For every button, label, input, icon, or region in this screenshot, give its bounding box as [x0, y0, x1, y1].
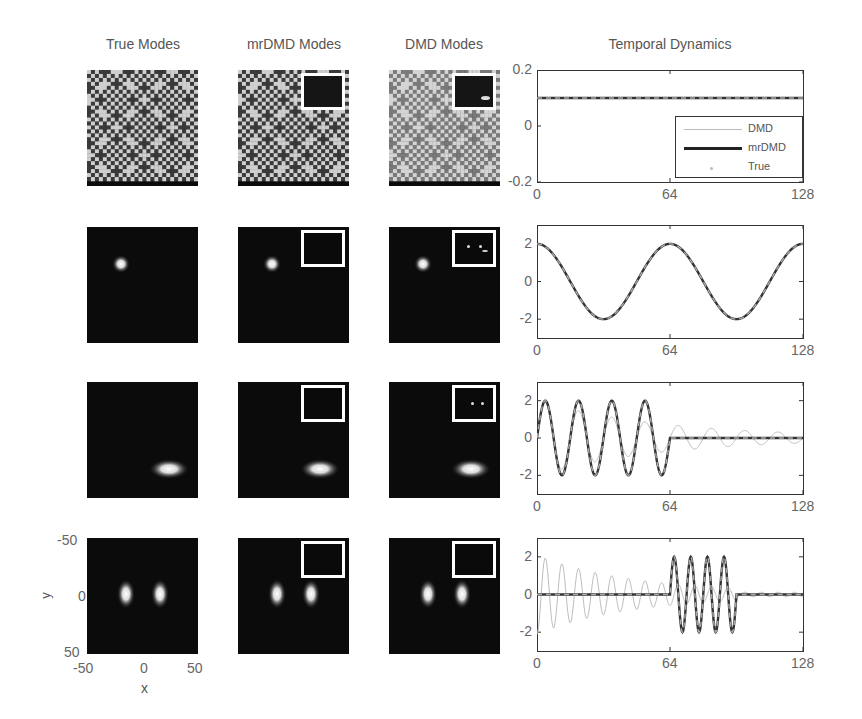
- plot3-y-tick: 2: [524, 392, 532, 408]
- plot1-x-tick: 128: [791, 186, 814, 202]
- temporal-plot-row1: 0.20-0.2064128DMDmrDMDTrue: [537, 70, 804, 183]
- mode-image-true-row2: [87, 227, 198, 343]
- mode-image-dmd-row2: [389, 227, 500, 343]
- column-title-temporal-dynamics: Temporal Dynamics: [590, 36, 750, 52]
- zoom-inset-mrdmd-row2: [301, 230, 345, 267]
- mode-image-mrdmd-row2: [238, 227, 349, 343]
- legend-swatch: [684, 147, 742, 150]
- plot2-x-tick: 64: [662, 342, 678, 358]
- legend-item-true: True: [676, 159, 802, 175]
- mode-image-true-row4: [87, 538, 198, 654]
- zoom-inset-dmd-row3: [452, 385, 496, 422]
- plot2-y-tick: 2: [524, 235, 532, 251]
- zoom-inset-dmd-row4: [452, 541, 496, 578]
- plot4-y-tick: -2: [520, 623, 532, 639]
- plot1-x-tick: 64: [662, 186, 678, 202]
- plot2-x-tick: 128: [791, 342, 814, 358]
- plot1-y-tick: -0.2: [508, 173, 532, 189]
- legend-swatch: [710, 167, 713, 170]
- plot1-y-tick: 0: [524, 117, 532, 133]
- plot4-x-tick: 64: [662, 655, 678, 671]
- mode-image-dmd-row3: [389, 382, 500, 498]
- temporal-plot-row4: 20-2064128: [537, 538, 804, 652]
- mode-image-mrdmd-row1: [238, 70, 349, 186]
- legend-label: True: [748, 160, 770, 172]
- plot3-x-tick: 64: [662, 498, 678, 514]
- mode-image-mrdmd-row3: [238, 382, 349, 498]
- mode-image-true-row3: [87, 382, 198, 498]
- plot4-x-tick: 0: [533, 655, 541, 671]
- column-title-mrdmd-modes: mrDMD Modes: [214, 36, 374, 52]
- plot3-x-tick: 128: [791, 498, 814, 514]
- legend-label: mrDMD: [748, 141, 786, 153]
- mode-image-mrdmd-row4: [238, 538, 349, 654]
- plot-legend: DMDmrDMDTrue: [675, 116, 803, 178]
- inset-feature: [467, 245, 470, 248]
- temporal-plot-row3: 20-2064128: [537, 382, 804, 495]
- inset-feature: [471, 402, 474, 405]
- legend-swatch: [684, 129, 742, 130]
- x-tick-neg50: -50: [73, 660, 93, 676]
- plot2-y-tick: -2: [520, 310, 532, 326]
- column-title-dmd-modes: DMD Modes: [364, 36, 524, 52]
- x-tick-0: 0: [140, 660, 148, 676]
- y-axis-label: y: [38, 592, 53, 599]
- x-axis-label: x: [141, 680, 148, 696]
- column-title-true-modes: True Modes: [63, 36, 223, 52]
- mode-image-true-row1: [87, 70, 198, 186]
- y-tick-neg50: -50: [57, 532, 77, 548]
- zoom-inset-mrdmd-row3: [301, 385, 345, 422]
- temporal-plot-row2: 20-2064128: [537, 225, 804, 339]
- zoom-inset-mrdmd-row4: [301, 541, 345, 578]
- legend-label: DMD: [748, 122, 773, 134]
- zoom-inset-mrdmd-row1: [301, 73, 345, 110]
- legend-item-mrdmd: mrDMD: [676, 140, 802, 156]
- zoom-inset-dmd-row2: [452, 230, 496, 267]
- mode-image-dmd-row4: [389, 538, 500, 654]
- plot1-x-tick: 0: [533, 186, 541, 202]
- plot3-y-tick: 0: [524, 429, 532, 445]
- plot4-y-tick: 0: [524, 586, 532, 602]
- x-tick-50: 50: [187, 660, 203, 676]
- zoom-inset-dmd-row1: [452, 73, 496, 110]
- inset-feature: [481, 402, 484, 405]
- mode-image-dmd-row1: [389, 70, 500, 186]
- inset-feature: [481, 96, 490, 100]
- plot3-x-tick: 0: [533, 498, 541, 514]
- inset-feature: [482, 250, 488, 252]
- plot4-y-tick: 2: [524, 548, 532, 564]
- y-tick-0: 0: [78, 588, 86, 604]
- plot4-x-tick: 128: [791, 655, 814, 671]
- y-tick-50: 50: [64, 644, 80, 660]
- plot3-y-tick: -2: [520, 466, 532, 482]
- plot2-x-tick: 0: [533, 342, 541, 358]
- plot2-y-tick: 0: [524, 273, 532, 289]
- plot1-y-tick: 0.2: [513, 61, 532, 77]
- inset-feature: [479, 245, 482, 248]
- legend-item-dmd: DMD: [676, 121, 802, 137]
